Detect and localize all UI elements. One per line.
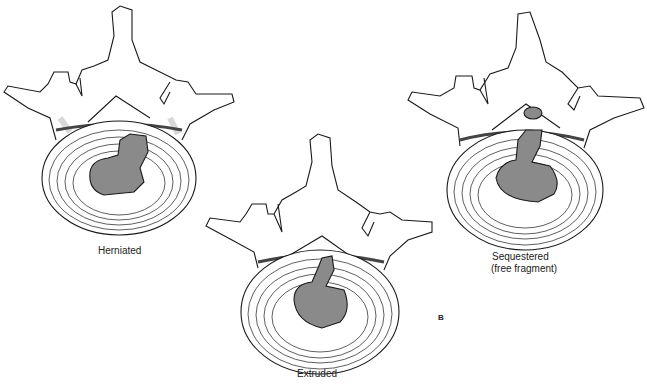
label-extruded: Extruded: [297, 368, 337, 380]
disc-herniation-diagram: Herniated Extruded Sequestered (free fra…: [0, 0, 647, 384]
label-sequestered: Sequestered: [492, 251, 549, 263]
label-herniated: Herniated: [98, 245, 141, 257]
vertebra-sequestered: [408, 12, 644, 250]
free-fragment: [524, 107, 542, 119]
vertebra-herniated: [4, 6, 234, 235]
panel-letter: B: [438, 313, 444, 322]
label-free-fragment: (free fragment): [491, 263, 557, 275]
illustration: [0, 0, 647, 384]
vertebra-extruded: [206, 134, 432, 374]
